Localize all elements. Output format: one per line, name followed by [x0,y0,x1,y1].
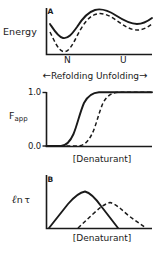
right-arrow-icon: → [139,70,147,81]
panel-a-y-axis-label: Energy [3,26,37,37]
panel-a-unfolding-text: Unfolding [96,71,139,81]
panel-c-x-axis-label: [Denaturant] [46,233,158,243]
panel-a-refolding-text: Refolding [51,71,93,81]
panel-a-x-axis-label: ←Refolding Unfolding→ [32,70,158,81]
panel-b-axes [47,92,153,147]
protein-folding-figure: A N U Energy ←Refolding Unfolding→ B Fap… [0,0,161,253]
panel-c-y-axis-label: ℓnτ [12,193,30,206]
panel-b-dashed-sigmoid [47,92,153,146]
panel-b-ytick-label-bottom: 0.0 [28,141,41,151]
panel-a-native-state-label: N [64,55,71,65]
panel-b-y-axis-label-subscript: app [15,115,28,123]
panel-c-y-axis-label-tau: τ [24,195,30,205]
panel-b-ytick-label-top: 1.0 [28,87,41,97]
panel-a-dashed-curve [50,14,152,52]
panel-b-x-axis-label: [Denaturant] [46,154,158,164]
panel-c-dashed-chevron [78,203,146,229]
left-arrow-icon: ← [43,70,51,81]
panel-c-y-axis-label-n: n [17,194,23,205]
panel-a-axes [47,8,153,55]
panel-a-unfolded-state-label: U [120,55,127,65]
panel-b-solid-sigmoid [47,92,153,146]
panel-a-letter: A [48,8,54,16]
panel-b-y-axis-label: Fapp [9,110,28,123]
